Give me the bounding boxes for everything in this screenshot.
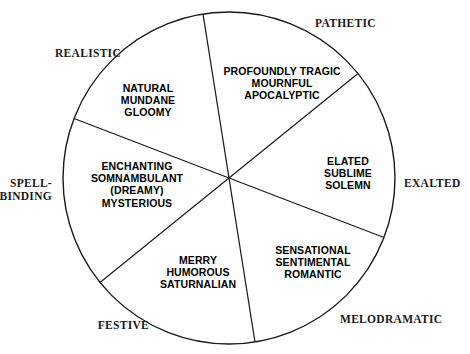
axis-label-realistic: REALISTIC [55,47,121,60]
mood-wheel-diagram: PROFOUNDLY TRAGIC MOURNFUL APOCALYPTICEL… [0,0,470,354]
sector-label-tragic: PROFOUNDLY TRAGIC MOURNFUL APOCALYPTIC [223,65,340,102]
axis-label-melodramatic: MELODRAMATIC [340,313,442,326]
sector-label-spellbinding: ENCHANTING SOMNAMBULANT (DREAMY) MYSTERI… [91,160,183,209]
sector-label-exalted: ELATED SUBLIME SOLEMN [324,155,372,192]
axis-label-exalted: EXALTED [404,177,461,190]
axis-label-spellbinding: SPELL- BINDING [0,177,52,203]
sector-label-melodramatic: SENSATIONAL SENTIMENTAL ROMANTIC [275,244,351,281]
axis-label-festive: FESTIVE [98,319,149,332]
sector-label-festive: MERRY HUMOROUS SATURNALIAN [160,254,236,291]
axis-label-pathetic: PATHETIC [315,17,376,30]
sector-label-realistic: NATURAL MUNDANE GLOOMY [121,82,175,119]
